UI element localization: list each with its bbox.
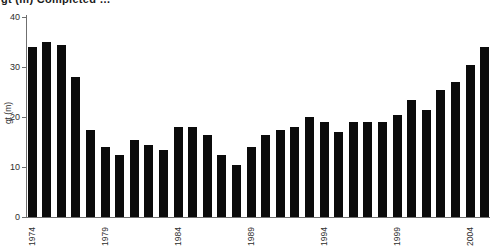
x-tick-label-1989: 1989	[246, 227, 256, 246]
y-tick	[22, 217, 26, 218]
y-tick-label: 40	[2, 12, 20, 23]
bar-1988	[232, 165, 241, 218]
bar-2001	[422, 110, 431, 218]
bar-1980	[115, 155, 124, 218]
bar-1985	[188, 127, 197, 217]
bar-1997	[363, 122, 372, 217]
bar-1979	[101, 147, 110, 217]
bar-1999	[393, 115, 402, 218]
bar-1987	[217, 155, 226, 218]
bar-1995	[334, 132, 343, 217]
x-tick-label-1984: 1984	[173, 227, 183, 246]
bar-1974	[28, 47, 37, 217]
bar-chart: gt (m) Completed … gt (m) 01020304019741…	[0, 0, 493, 250]
bar-2003	[451, 82, 460, 217]
y-tick-label: 20	[2, 112, 20, 123]
x-tick-label-1999: 1999	[392, 227, 402, 246]
bar-1983	[159, 150, 168, 218]
bar-1993	[305, 117, 314, 217]
y-tick	[22, 17, 26, 18]
bar-2000	[407, 100, 416, 218]
bar-1986	[203, 135, 212, 218]
bar-1990	[261, 135, 270, 218]
y-tick	[22, 67, 26, 68]
x-tick-label-1994: 1994	[319, 227, 329, 246]
bar-1976	[57, 45, 66, 218]
bar-1981	[130, 140, 139, 218]
y-tick-label: 10	[2, 162, 20, 173]
y-tick	[22, 117, 26, 118]
bar-2005	[480, 47, 489, 217]
bar-1994	[320, 122, 329, 217]
y-tick-label: 30	[2, 62, 20, 73]
bar-1984	[174, 127, 183, 217]
bar-2002	[436, 90, 445, 218]
chart-title: gt (m) Completed …	[1, 0, 111, 5]
x-axis	[26, 217, 490, 218]
bar-1978	[86, 130, 95, 218]
bar-1998	[378, 122, 387, 217]
bar-2004	[466, 65, 475, 218]
x-tick-label-2004: 2004	[465, 227, 475, 246]
bar-1996	[349, 122, 358, 217]
bar-1991	[276, 130, 285, 218]
bar-1992	[290, 127, 299, 217]
bar-1977	[71, 77, 80, 217]
bar-1982	[144, 145, 153, 218]
y-tick	[22, 167, 26, 168]
x-tick-label-1974: 1974	[27, 227, 37, 246]
bar-1989	[247, 147, 256, 217]
x-tick-label-1979: 1979	[100, 227, 110, 246]
y-tick-label: 0	[2, 212, 20, 223]
bar-1975	[42, 42, 51, 217]
